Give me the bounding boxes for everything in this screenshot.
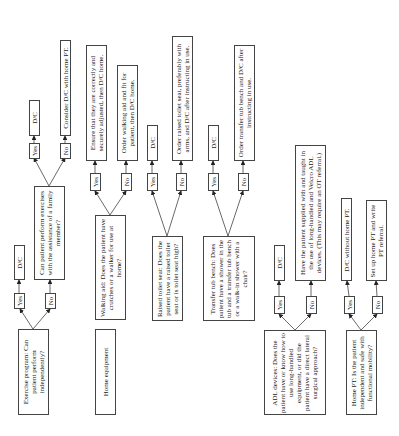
toilet-seat-label: Raised toilet seat: Does the patient hav… — [156, 239, 180, 319]
walking-no-label: No — [123, 174, 131, 190]
pt-setup-node: Set up home PT and write PT referral. — [366, 200, 387, 281]
family-yes-label: Yes — [31, 143, 39, 159]
family-yes-node: Yes — [29, 143, 40, 159]
walking-yes-node: Yes — [90, 173, 101, 191]
family-consider-label: Consider D/C with home PT. — [62, 41, 70, 135]
adl-yes-node: Yes — [274, 296, 285, 314]
family-no-node: No — [60, 143, 71, 159]
walking-aid-label: Walking aid: Does the patient have crutc… — [99, 218, 123, 318]
family-dc-label: D/C — [31, 103, 39, 133]
pt-setup-label: Set up home PT and write PT referral. — [369, 202, 385, 280]
pt-dc-node: D/C without home PT. — [341, 198, 352, 281]
home-equipment-node: Home equipment — [95, 329, 116, 415]
walking-ensure-node: Ensure that they are correctly and secur… — [86, 45, 107, 161]
tub-dc-node: D/C — [208, 125, 219, 161]
tub-yes-node: Yes — [208, 173, 219, 191]
adl-devices-node: ADL devices: Does the patient have or kn… — [264, 330, 326, 415]
home-pt-label: Home PT: Is the patient independent and … — [350, 333, 374, 413]
walking-aid-node: Walking aid: Does the patient have crutc… — [95, 215, 126, 320]
pt-yes-node: Yes — [344, 296, 355, 314]
tub-bench-label: Transfer tub bench: Does patient have a … — [209, 239, 249, 319]
exercise-no-node: No — [45, 293, 56, 309]
pt-no-label: No — [374, 297, 382, 313]
toilet-yes-node: Yes — [147, 173, 158, 191]
tub-bench-node: Transfer tub bench: Does patient have a … — [203, 236, 255, 321]
pt-dc-label: D/C without home PT. — [343, 200, 351, 280]
family-consider-node: Consider D/C with home PT. — [60, 40, 71, 136]
toilet-dc-node: D/C — [147, 125, 158, 161]
tub-order-label: Order transfer tub bench and D/C after i… — [237, 48, 253, 158]
walking-order-label: Order walking aid and fit for patient, t… — [120, 67, 136, 159]
family-dc-node: D/C — [29, 100, 40, 136]
walking-no-node: No — [121, 173, 132, 191]
adl-supply-label: Have the patient supplied with and taugh… — [299, 148, 323, 278]
pt-no-node: No — [372, 296, 383, 314]
adl-devices-label: ADL devices: Does the patient have or kn… — [271, 333, 319, 413]
walking-yes-label: Yes — [92, 174, 100, 190]
adl-supply-node: Have the patient supplied with and taugh… — [295, 145, 326, 281]
family-assist-node: Can patient perform exercises with the a… — [34, 186, 65, 280]
exercise-dc-label: D/C — [16, 248, 24, 278]
tub-dc-label: D/C — [210, 128, 218, 158]
toilet-seat-node: Raised toilet seat: Does the patient hav… — [152, 236, 183, 321]
exercise-no-label: No — [47, 293, 55, 309]
family-assist-label: Can patient perform exercises with the a… — [38, 189, 62, 277]
toilet-order-label: Order raised toilet seat, preferably wit… — [175, 39, 191, 159]
adl-no-node: No — [306, 296, 317, 314]
walking-order-node: Order walking aid and fit for patient, t… — [117, 65, 138, 161]
tub-no-node: No — [238, 173, 249, 191]
tub-order-node: Order transfer tub bench and D/C after i… — [234, 45, 255, 161]
home-pt-node: Home PT: Is the patient independent and … — [346, 330, 377, 415]
exercise-yes-label: Yes — [16, 293, 24, 309]
exercise-dc-node: D/C — [14, 245, 25, 280]
exercise-program-label: Exercise program: Can patient perform in… — [22, 332, 46, 412]
adl-dc-node: D/C — [274, 245, 285, 281]
tub-yes-label: Yes — [210, 174, 218, 190]
tub-no-label: No — [240, 174, 248, 190]
toilet-no-label: No — [178, 174, 186, 190]
exercise-yes-node: Yes — [14, 293, 25, 309]
family-no-label: No — [62, 143, 70, 159]
home-equipment-label: Home equipment — [102, 332, 110, 412]
toilet-yes-label: Yes — [149, 174, 157, 190]
pt-yes-label: Yes — [346, 297, 354, 313]
toilet-no-node: No — [176, 173, 187, 191]
exercise-program-node: Exercise program: Can patient perform in… — [18, 329, 49, 415]
adl-yes-label: Yes — [276, 297, 284, 313]
adl-no-label: No — [308, 297, 316, 313]
toilet-order-node: Order raised toilet seat, preferably wit… — [172, 36, 193, 161]
toilet-dc-label: D/C — [149, 128, 157, 158]
adl-dc-label: D/C — [276, 248, 284, 278]
walking-ensure-label: Ensure that they are correctly and secur… — [89, 47, 105, 159]
